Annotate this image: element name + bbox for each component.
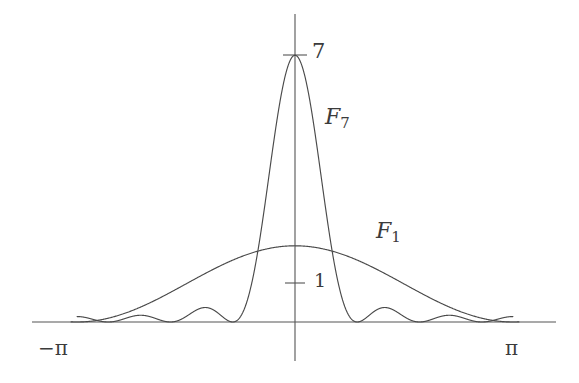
y-tick-label-1: 1 (314, 271, 326, 290)
curve-label-f7-subscript: 7 (340, 114, 350, 132)
plot-canvas (0, 0, 579, 383)
fejer-kernel-figure: 7 1 F7 F1 −π π (0, 0, 579, 383)
curve-label-f7: F7 (325, 106, 350, 131)
curve-label-f7-base: F (325, 104, 340, 129)
curve-label-f1-subscript: 1 (391, 228, 401, 246)
curve-label-f1: F1 (376, 220, 401, 245)
curve-label-f1-base: F (376, 218, 391, 243)
y-tick-label-7: 7 (312, 41, 325, 62)
x-tick-label-pi: π (505, 338, 518, 358)
x-tick-label-minus-pi: −π (38, 338, 68, 358)
